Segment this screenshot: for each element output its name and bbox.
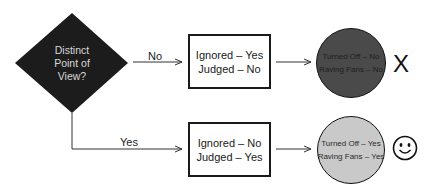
no-outcome-circle: Turned Off – No Raving Fans – No bbox=[316, 28, 386, 98]
decision-line: Point of bbox=[36, 57, 108, 70]
decision-line: Distinct bbox=[36, 44, 108, 57]
outcome-line: Turned Off – Yes bbox=[321, 137, 381, 150]
outcome-line: Raving Fans – No bbox=[319, 63, 383, 76]
outcome-line: Turned Off – No bbox=[323, 50, 380, 63]
no-branch-label: No bbox=[148, 50, 162, 62]
x-mark-icon: X bbox=[393, 50, 409, 78]
yes-outcome-circle: Turned Off – Yes Raving Fans – Yes bbox=[317, 116, 385, 184]
yes-result-box: Ignored – No Judged – Yes bbox=[188, 122, 271, 177]
box-line: Judged – Yes bbox=[196, 150, 262, 164]
outcome-line: Raving Fans – Yes bbox=[318, 150, 385, 163]
decision-label: Distinct Point of View? bbox=[36, 44, 108, 83]
smiley-face-icon bbox=[392, 135, 418, 161]
box-line: Ignored – No bbox=[198, 136, 262, 150]
yes-branch-label: Yes bbox=[120, 136, 138, 148]
box-line: Ignored – Yes bbox=[196, 48, 263, 62]
box-line: Judged – No bbox=[198, 62, 260, 76]
decision-line: View? bbox=[36, 70, 108, 83]
no-result-box: Ignored – Yes Judged – No bbox=[188, 34, 271, 89]
